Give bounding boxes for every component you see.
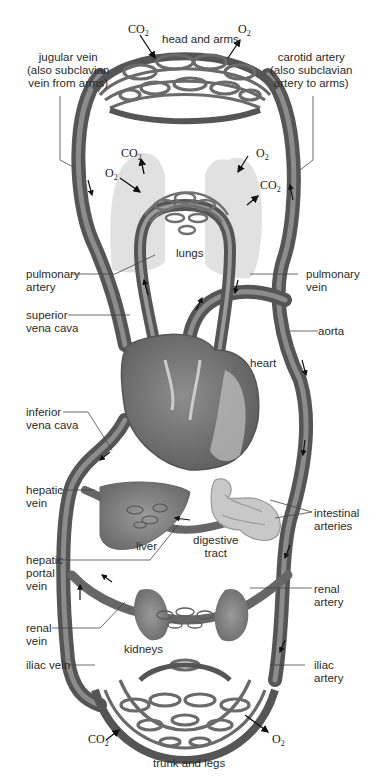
pulmonary-artery-line2: artery bbox=[26, 281, 80, 294]
label-carotid-artery: carotid artery (also subclavian artery t… bbox=[270, 51, 352, 90]
o2-subscript: 2 bbox=[247, 29, 251, 38]
label-hepatic-portal-vein: hepatic portal vein bbox=[26, 554, 63, 593]
carotid-line2: (also subclavian bbox=[270, 64, 352, 77]
hepatic-vein-line2: vein bbox=[26, 497, 63, 510]
gas-o2-lungs-right: O2 bbox=[256, 146, 269, 162]
hpv-line1: hepatic bbox=[26, 554, 63, 567]
heart-organ bbox=[122, 334, 259, 470]
renal-artery-line2: artery bbox=[314, 596, 343, 609]
label-lungs: lungs bbox=[176, 247, 204, 260]
hpv-line2: portal bbox=[26, 567, 63, 580]
iliac-artery-line2: artery bbox=[314, 672, 343, 685]
kidneys-organ bbox=[134, 589, 248, 641]
hepatic-vein-line1: hepatic bbox=[26, 484, 63, 497]
head-arms-capillary-bed bbox=[95, 55, 275, 121]
pulmonary-artery-line1: pulmonary bbox=[26, 268, 80, 281]
svc-line1: superior bbox=[26, 309, 78, 322]
co2-text: CO bbox=[121, 146, 138, 160]
hpv-line3: vein bbox=[26, 580, 63, 593]
digestive-tract-organ bbox=[211, 479, 280, 540]
o2-subscript: 2 bbox=[114, 173, 118, 182]
label-digestive-line1: digestive bbox=[193, 534, 238, 547]
co2-subscript: 2 bbox=[277, 185, 281, 194]
carotid-line3: artery to arms) bbox=[270, 77, 352, 90]
gas-o2-trunk: O2 bbox=[272, 732, 285, 748]
pulmonary-vein-line1: pulmonary bbox=[306, 268, 360, 281]
label-iliac-vein: iliac vein bbox=[26, 659, 70, 672]
o2-subscript: 2 bbox=[281, 739, 285, 748]
label-pulmonary-artery: pulmonary artery bbox=[26, 268, 80, 294]
o2-text: O bbox=[105, 166, 114, 180]
o2-subscript: 2 bbox=[265, 153, 269, 162]
label-renal-artery: renal artery bbox=[314, 583, 343, 609]
gas-co2-lungs-left: CO2 bbox=[121, 146, 142, 162]
svc-line2: vena cava bbox=[26, 322, 78, 335]
label-aorta: aorta bbox=[318, 325, 344, 338]
trunk-legs-capillary-bed bbox=[95, 660, 275, 760]
iliac-artery-line1: iliac bbox=[314, 659, 343, 672]
ivc-line1: inferior bbox=[26, 406, 78, 419]
co2-text: CO bbox=[128, 22, 145, 36]
jugular-line2: (also subclavian bbox=[27, 64, 109, 77]
gas-co2-head: CO2 bbox=[128, 22, 149, 38]
gas-o2-lungs-left: O2 bbox=[105, 166, 118, 182]
co2-subscript: 2 bbox=[138, 153, 142, 162]
label-pulmonary-vein: pulmonary vein bbox=[306, 268, 360, 294]
co2-subscript: 2 bbox=[145, 29, 149, 38]
jugular-line3: vein from arms) bbox=[27, 77, 109, 90]
label-head-and-arms: head and arms bbox=[162, 33, 239, 46]
ivc-line2: vena cava bbox=[26, 419, 78, 432]
label-digestive-tract: digestive tract bbox=[193, 534, 238, 560]
renal-vein-line1: renal bbox=[26, 622, 52, 635]
label-intestinal-arteries: intestinal arteries bbox=[314, 507, 359, 533]
intestinal-line1: intestinal bbox=[314, 507, 359, 520]
label-kidneys: kidneys bbox=[124, 643, 163, 656]
gas-o2-head: O2 bbox=[238, 22, 251, 38]
label-heart: heart bbox=[250, 357, 276, 370]
label-superior-vena-cava: superior vena cava bbox=[26, 309, 78, 335]
label-trunk-and-legs: trunk and legs bbox=[153, 757, 225, 770]
label-iliac-artery: iliac artery bbox=[314, 659, 343, 685]
co2-text: CO bbox=[260, 178, 277, 192]
gas-co2-lungs-right: CO2 bbox=[260, 178, 281, 194]
jugular-line1: jugular vein bbox=[27, 51, 109, 64]
o2-text: O bbox=[238, 22, 247, 36]
label-renal-vein: renal vein bbox=[26, 622, 52, 648]
label-inferior-vena-cava: inferior vena cava bbox=[26, 406, 78, 432]
intestinal-line2: arteries bbox=[314, 520, 359, 533]
pulmonary-vein-line2: vein bbox=[306, 281, 360, 294]
label-hepatic-vein: hepatic vein bbox=[26, 484, 63, 510]
label-digestive-line2: tract bbox=[193, 547, 238, 560]
co2-subscript: 2 bbox=[105, 739, 109, 748]
o2-text: O bbox=[256, 146, 265, 160]
label-liver: liver bbox=[136, 540, 157, 553]
gas-co2-trunk: CO2 bbox=[88, 732, 109, 748]
carotid-line1: carotid artery bbox=[270, 51, 352, 64]
renal-artery-line1: renal bbox=[314, 583, 343, 596]
label-jugular-vein: jugular vein (also subclavian vein from … bbox=[27, 51, 109, 90]
o2-text: O bbox=[272, 732, 281, 746]
renal-vein-line2: vein bbox=[26, 635, 52, 648]
co2-text: CO bbox=[88, 732, 105, 746]
